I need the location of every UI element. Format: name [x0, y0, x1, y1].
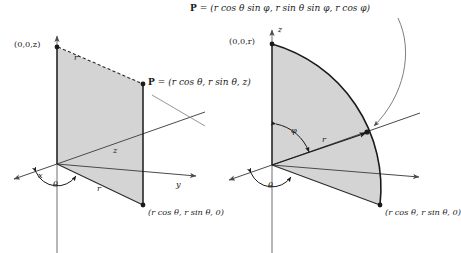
right-x-axis — [229, 165, 272, 180]
left-top-vertex-dot — [55, 45, 60, 50]
right-P-coords: (r cos θ sin φ, r sin θ sin φ, r cos φ) — [210, 3, 370, 13]
left-y-axis-label: y — [176, 180, 181, 188]
left-base-radius-label: r — [97, 184, 101, 192]
left-base-point-dot — [141, 203, 146, 208]
right-P-symbol: P — [190, 3, 197, 13]
right-theta-label: θ — [268, 181, 273, 189]
right-point-P-label: P=(r cos θ sin φ, r sin θ sin φ, r cos φ… — [190, 4, 370, 13]
right-z-axis-label: z — [278, 26, 282, 34]
left-top-vertex-label: (0,0,z) — [14, 40, 40, 48]
right-top-vertex-dot — [270, 42, 275, 47]
left-segment-z-label: z — [113, 146, 117, 154]
right-point-P-dot — [364, 129, 369, 134]
left-P-equals: = — [158, 77, 166, 87]
left-point-P-dot — [141, 82, 146, 87]
left-shaded-region — [57, 47, 143, 205]
right-P-equals: = — [200, 3, 208, 13]
left-radius-top-label: r — [74, 53, 78, 61]
right-base-point-dot — [378, 203, 383, 208]
right-top-vertex-label: (0,0,r) — [229, 37, 255, 45]
left-x-axis — [14, 164, 57, 179]
right-base-point-label: (r cos θ, r sin θ, 0) — [385, 208, 461, 216]
right-phi-label: φ — [291, 126, 297, 134]
left-point-P-label: P=(r cos θ, r sin θ, z) — [148, 78, 251, 87]
right-radius-label: r — [322, 135, 326, 143]
right-P-leader-curve — [374, 18, 406, 126]
left-diagram-group — [14, 36, 205, 253]
left-P-symbol: P — [148, 77, 155, 87]
left-P-coords: (r cos θ, r sin θ, z) — [168, 77, 250, 87]
left-x-axis-label: x — [38, 171, 43, 179]
left-base-point-label: (r cos θ, r sin θ, 0) — [148, 208, 224, 216]
left-theta-label: θ — [53, 180, 58, 188]
